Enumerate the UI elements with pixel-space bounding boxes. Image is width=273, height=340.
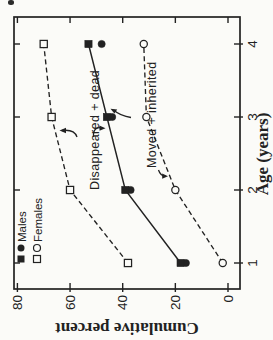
data-point-circle-open: [140, 40, 147, 47]
y-tick-label: 0: [221, 295, 236, 303]
data-point-circle-filled: [98, 40, 105, 47]
y-tick-label: 60: [63, 295, 78, 310]
x-axis-title: Age (years): [253, 113, 272, 196]
open-circle-icon: [34, 245, 41, 252]
arrowhead-down2-icon: [162, 174, 168, 179]
data-point-square-open: [40, 40, 47, 47]
x-tick-label: 1: [245, 259, 260, 267]
figure-scan: 0204060801234 Age (years) Cumulative per…: [0, 0, 273, 340]
legend-males-label: Males: [16, 211, 28, 242]
data-point-square-filled: [122, 186, 129, 193]
annotation-moved-inherited: Moved + inherited: [145, 61, 159, 168]
legend-females-row: Females: [32, 198, 44, 263]
y-axis-title: Cumulative percent: [55, 319, 199, 338]
data-point-square-filled: [103, 113, 110, 120]
legend: Males Females: [16, 198, 44, 263]
data-point-circle-open: [172, 186, 179, 193]
chart-rotated: 0204060801234 Age (years) Cumulative per…: [0, 0, 273, 340]
legend-males-row: Males: [16, 211, 28, 262]
series-line-square-open: [44, 44, 128, 263]
data-point-circle-open: [219, 259, 226, 266]
data-point-square-open: [124, 259, 131, 266]
data-series: [40, 40, 226, 266]
open-square-icon: [34, 256, 41, 263]
data-point-square-open: [66, 186, 73, 193]
arrowhead-down-icon: [99, 126, 105, 131]
data-point-square-filled: [85, 40, 92, 47]
plot-border: [14, 17, 240, 289]
y-tick-label: 40: [115, 295, 130, 310]
filled-square-icon: [18, 256, 25, 263]
filled-circle-icon: [18, 245, 25, 252]
x-tick-label: 4: [245, 40, 260, 48]
arrowhead-up-icon: [60, 128, 67, 133]
data-point-square-filled: [177, 259, 184, 266]
survival-curve-chart: 0204060801234 Age (years) Cumulative per…: [0, 0, 273, 340]
y-tick-label: 20: [168, 295, 183, 310]
data-point-square-open: [48, 113, 55, 120]
arrow-to-male-line-right: [114, 110, 132, 118]
y-tick-label: 80: [10, 295, 25, 310]
legend-females-label: Females: [32, 198, 44, 242]
